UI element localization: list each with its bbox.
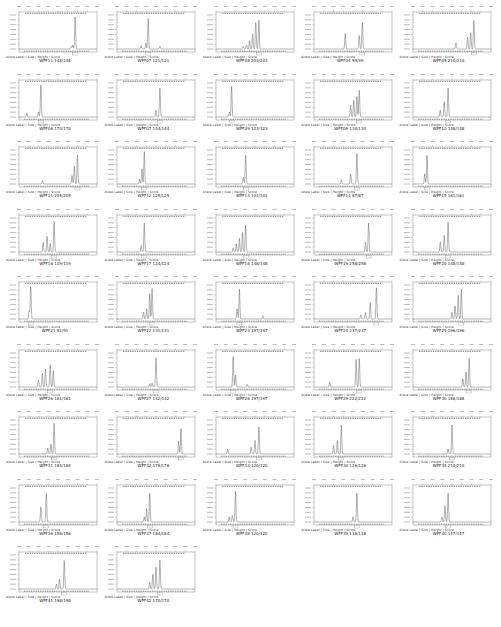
trace-plot [6, 139, 104, 191]
panel-caption: Allele Label | Size | Height | Score WPF… [104, 529, 202, 543]
marker-label: WPF09 134/134 [301, 127, 399, 131]
panel-caption: Allele Label | Size | Height | Score WPF… [301, 259, 399, 273]
trace-plot [301, 207, 399, 259]
electropherogram-panel: Allele Label | Size | Height | Score WPF… [203, 4, 301, 71]
electropherogram-panel: Allele Label | Size | Height | Score WPF… [301, 207, 399, 274]
electropherogram-panel: Allele Label | Size | Height | Score WPF… [6, 139, 104, 206]
marker-label: WPF08 203/203 [203, 59, 301, 63]
panel-caption: Allele Label | Size | Height | Score WPF… [6, 259, 104, 273]
electropherogram-panel: Allele Label | Size | Height | Score WPF… [400, 139, 498, 206]
marker-label: WPF41 198/198 [6, 599, 104, 603]
marker-label: WPF31 184/184 [6, 464, 104, 468]
electropherogram-panel: Allele Label | Size | Height | Score WPF… [104, 207, 202, 274]
electropherogram-grid: Allele Label | Size | Height | Score WPF… [6, 4, 498, 612]
trace-plot [400, 207, 498, 259]
electropherogram-panel: Allele Label | Size | Height | Score WPF… [6, 544, 104, 611]
marker-label: WPF15 161/161 [400, 194, 498, 198]
electropherogram-panel: Allele Label | Size | Height | Score WPF… [6, 477, 104, 544]
electropherogram-panel: Allele Label | Size | Height | Score WPF… [104, 544, 202, 611]
panel-caption: Allele Label | Size | Height | Score WPF… [6, 596, 104, 610]
marker-label: WPF07 144/144 [104, 127, 202, 131]
marker-label: WPF11 148/148 [6, 59, 104, 63]
marker-label: WPF06 170/170 [6, 127, 104, 131]
panel-caption: Allele Label | Size | Height | Score WPF… [6, 529, 104, 543]
trace-plot [104, 4, 202, 56]
panel-caption: Allele Label | Size | Height | Score WPF… [104, 124, 202, 138]
electropherogram-panel: Allele Label | Size | Height | Score WPF… [301, 342, 399, 409]
trace-plot [400, 72, 498, 124]
marker-label: WPF11 205/205 [6, 194, 104, 198]
marker-label: WPF33 120/120 [203, 464, 301, 468]
marker-label: WPF27 142/142 [104, 397, 202, 401]
marker-label: WPF32 176/176 [104, 464, 202, 468]
panel-caption: Allele Label | Size | Height | Score WPF… [203, 529, 301, 543]
electropherogram-panel: Allele Label | Size | Height | Score WPF… [6, 409, 104, 476]
marker-label: WPF28 197/197 [203, 397, 301, 401]
trace-plot [6, 409, 104, 461]
trace-plot [6, 477, 104, 529]
marker-label: WPF20 148/148 [400, 262, 498, 266]
trace-plot [400, 342, 498, 394]
trace-plot [301, 4, 399, 56]
trace-plot [400, 274, 498, 326]
marker-label: WPF30 188/188 [400, 397, 498, 401]
panel-caption: Allele Label | Size | Height | Score WPF… [104, 461, 202, 475]
electropherogram-panel: Allele Label | Size | Height | Score WPF… [400, 207, 498, 274]
panel-caption: Allele Label | Size | Height | Score WPF… [104, 259, 202, 273]
marker-label: WPF37 184/184 [104, 532, 202, 536]
marker-label: WPF26 161/161 [6, 397, 104, 401]
marker-label: WPF36 156/156 [6, 532, 104, 536]
electropherogram-panel: Allele Label | Size | Height | Score WPF… [6, 274, 104, 341]
panel-caption: Allele Label | Size | Height | Score WPF… [203, 326, 301, 340]
marker-label: WPF09 123/123 [203, 127, 301, 131]
marker-label: WPF35 210/210 [400, 464, 498, 468]
panel-caption: Allele Label | Size | Height | Score WPF… [104, 326, 202, 340]
trace-plot [203, 4, 301, 56]
electropherogram-panel: Allele Label | Size | Height | Score WPF… [6, 4, 104, 71]
marker-label: WPF18 148/148 [203, 262, 301, 266]
trace-plot [203, 477, 301, 529]
trace-plot [6, 544, 104, 596]
panel-caption: Allele Label | Size | Height | Score WPF… [6, 191, 104, 205]
marker-label: WPF10 148/148 [400, 127, 498, 131]
trace-plot [104, 544, 202, 596]
panel-caption: Allele Label | Size | Height | Score WPF… [104, 56, 202, 70]
panel-caption: Allele Label | Size | Height | Score WPF… [6, 394, 104, 408]
electropherogram-panel: Allele Label | Size | Height | Score WPF… [104, 139, 202, 206]
electropherogram-panel: Allele Label | Size | Height | Score WPF… [104, 477, 202, 544]
electropherogram-panel: Allele Label | Size | Height | Score WPF… [6, 72, 104, 139]
trace-plot [203, 409, 301, 461]
electropherogram-panel: Allele Label | Size | Height | Score WPF… [400, 274, 498, 341]
trace-plot [104, 342, 202, 394]
trace-plot [203, 274, 301, 326]
electropherogram-panel: Allele Label | Size | Height | Score WPF… [301, 477, 399, 544]
electropherogram-panel: Allele Label | Size | Height | Score WPF… [400, 4, 498, 71]
panel-caption: Allele Label | Size | Height | Score WPF… [400, 394, 498, 408]
electropherogram-panel: Allele Label | Size | Height | Score WPF… [6, 342, 104, 409]
panel-caption: Allele Label | Size | Height | Score WPF… [400, 191, 498, 205]
trace-plot [104, 207, 202, 259]
panel-caption: Allele Label | Size | Height | Score WPF… [203, 461, 301, 475]
panel-caption: Allele Label | Size | Height | Score WPF… [203, 56, 301, 70]
marker-label: WPF04 99/99 [301, 59, 399, 63]
panel-caption: Allele Label | Size | Height | Score WPF… [400, 529, 498, 543]
trace-plot [6, 207, 104, 259]
electropherogram-panel: Allele Label | Size | Height | Score WPF… [203, 139, 301, 206]
trace-plot [104, 477, 202, 529]
marker-label: WPF05 210/210 [400, 59, 498, 63]
marker-label: WPF38 120/120 [203, 532, 301, 536]
electropherogram-panel: Allele Label | Size | Height | Score WPF… [104, 409, 202, 476]
electropherogram-panel: Allele Label | Size | Height | Score WPF… [203, 409, 301, 476]
panel-caption: Allele Label | Size | Height | Score WPF… [301, 56, 399, 70]
panel-caption: Allele Label | Size | Height | Score WPF… [301, 191, 399, 205]
trace-plot [400, 4, 498, 56]
panel-caption: Allele Label | Size | Height | Score WPF… [104, 191, 202, 205]
trace-plot [6, 342, 104, 394]
panel-caption: Allele Label | Size | Height | Score WPF… [301, 124, 399, 138]
trace-plot [400, 139, 498, 191]
electropherogram-panel: Allele Label | Size | Height | Score WPF… [203, 274, 301, 341]
panel-caption: Allele Label | Size | Height | Score WPF… [400, 56, 498, 70]
panel-caption: Allele Label | Size | Height | Score WPF… [6, 461, 104, 475]
panel-caption: Allele Label | Size | Height | Score WPF… [400, 326, 498, 340]
electropherogram-panel: Allele Label | Size | Height | Score WPF… [301, 72, 399, 139]
